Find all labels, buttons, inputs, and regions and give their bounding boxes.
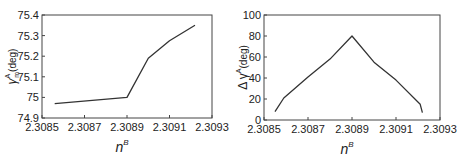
plot-frame xyxy=(264,15,440,120)
x-tick-label: 2.3087 xyxy=(68,121,102,133)
y-axis-title: Δ γA(deg) xyxy=(235,45,250,90)
y-tick-label: 75.2 xyxy=(18,50,39,62)
ticks xyxy=(264,15,440,120)
x-tick-label: 2.3093 xyxy=(423,123,457,135)
chart-left: 2.30852.30872.30892.30912.3093 74.97575.… xyxy=(4,9,229,155)
series-line xyxy=(275,36,422,113)
y-tick-label: 20 xyxy=(249,93,261,105)
x-tick-label: 2.3085 xyxy=(247,123,281,135)
x-axis-title: nB xyxy=(115,138,129,155)
chart-right: 2.30852.30872.30892.30912.3093 020406080… xyxy=(235,9,457,157)
x-tick-label: 2.3087 xyxy=(291,123,325,135)
y-axis-title: γAm(deg) xyxy=(4,49,20,85)
x-tick-label: 2.3093 xyxy=(195,121,229,133)
y-tick-label: 74.9 xyxy=(18,112,39,124)
x-tick-label: 2.3091 xyxy=(379,123,413,135)
y-tick-label: 40 xyxy=(249,72,261,84)
y-tick-label: 75.4 xyxy=(18,9,39,21)
y-tick-label: 100 xyxy=(243,9,261,21)
x-tick-labels: 2.30852.30872.30892.30912.3093 xyxy=(247,123,457,135)
y-tick-label: 75.1 xyxy=(18,71,39,83)
y-tick-label: 60 xyxy=(249,51,261,63)
x-tick-label: 2.3091 xyxy=(153,121,187,133)
chart-figure: 2.30852.30872.30892.30912.3093 74.97575.… xyxy=(0,0,460,159)
y-tick-labels: 74.97575.175.275.375.4 xyxy=(18,9,39,124)
x-tick-label: 2.3089 xyxy=(335,123,369,135)
y-tick-label: 0 xyxy=(255,114,261,126)
y-tick-label: 75.3 xyxy=(18,30,39,42)
x-tick-label: 2.3089 xyxy=(110,121,144,133)
y-tick-label: 75 xyxy=(27,91,39,103)
series-line xyxy=(55,25,195,103)
y-tick-label: 80 xyxy=(249,30,261,42)
x-axis-title: nB xyxy=(340,140,354,157)
x-tick-labels: 2.30852.30872.30892.30912.3093 xyxy=(25,121,229,133)
